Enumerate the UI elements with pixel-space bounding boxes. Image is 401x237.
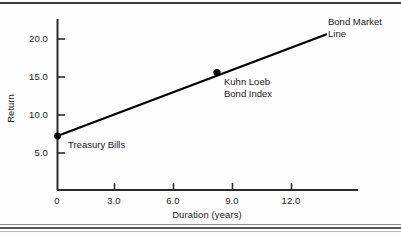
x-tick-label-12: 12.0 [271, 195, 311, 207]
plot-area: 20.0 15.0 10.0 5.0 0 3.0 6.0 9.0 12.0 Re… [0, 0, 401, 237]
y-tick-label-10: 10.0 [14, 109, 48, 121]
data-point-kuhn-loeb [213, 69, 220, 76]
x-tick-label-6: 6.0 [153, 195, 193, 207]
bond-market-line-series [56, 35, 326, 137]
annotation-treasury-bills: Treasury Bills [68, 139, 125, 151]
data-point-treasury-bills [54, 133, 61, 140]
figure-container: 20.0 15.0 10.0 5.0 0 3.0 6.0 9.0 12.0 Re… [0, 0, 401, 237]
y-tick-label-15: 15.0 [14, 71, 48, 83]
annotation-bond-market-line: Bond Market Line [328, 16, 382, 41]
y-axis-title: Return [5, 87, 16, 131]
x-tick-label-9: 9.0 [212, 195, 252, 207]
y-tick-label-5: 5.0 [14, 147, 48, 159]
x-axis-title: Duration (years) [122, 209, 292, 221]
annotation-kuhn-loeb-bond-index: Kuhn Loeb Bond Index [224, 76, 272, 101]
x-axis-ticks [115, 183, 292, 190]
x-tick-label-0: 0 [37, 195, 77, 207]
y-tick-label-20: 20.0 [14, 33, 48, 45]
x-tick-label-3: 3.0 [94, 195, 134, 207]
